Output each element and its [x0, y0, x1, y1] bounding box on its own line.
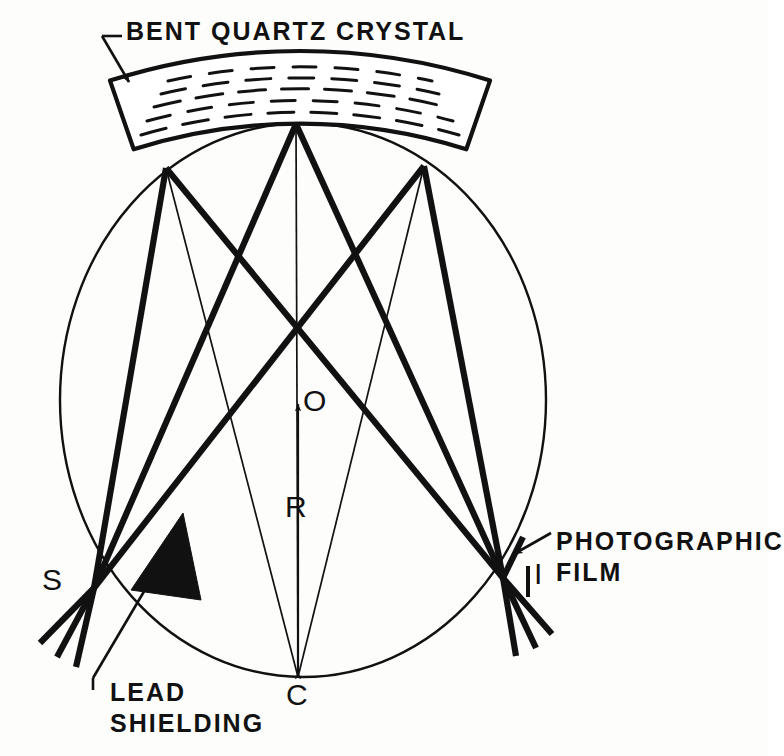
point-label-i: I [534, 556, 542, 591]
stub-above-i-1 [503, 537, 523, 578]
crystal-leader-arrow [102, 36, 129, 82]
shield-label-line1: LEAD [110, 678, 186, 708]
point-label-s: S [42, 562, 62, 597]
film-label-line2: FILM [556, 558, 622, 588]
beam-diffracted-left [166, 168, 503, 578]
beam-diffracted-center [296, 124, 503, 578]
shield-label-line2: SHIELDING [110, 709, 264, 739]
beam-diffracted-right [424, 166, 503, 578]
point-label-c: C [286, 677, 308, 712]
crystal-leader-group [102, 36, 129, 82]
radius-label-r: R [285, 489, 307, 524]
film-label-line1: PHOTOGRAPHIC [556, 527, 784, 557]
beam-incident-left [94, 168, 166, 588]
beam-incident-center [94, 124, 296, 588]
crystal-label: BENT QUARTZ CRYSTAL [126, 17, 465, 47]
crystal-normals-group [166, 124, 424, 677]
shield-leader-arrow [93, 566, 159, 678]
point-label-o: O [303, 383, 326, 418]
shield-leader-group [93, 566, 159, 690]
